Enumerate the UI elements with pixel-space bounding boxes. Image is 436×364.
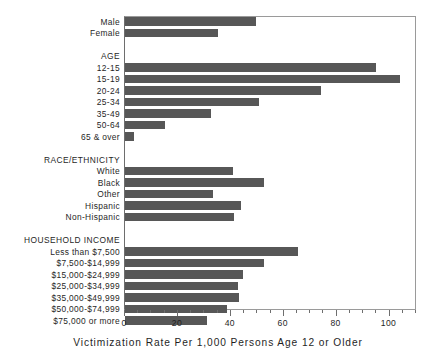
chart-group-row: HOUSEHOLD INCOME bbox=[0, 235, 436, 247]
chart-bar-row: White bbox=[0, 166, 436, 178]
category-label: 15-19 bbox=[97, 75, 124, 84]
x-axis-minor-tick bbox=[243, 310, 244, 313]
category-label: Other bbox=[97, 190, 124, 199]
category-label: $15,000-$24,999 bbox=[51, 270, 124, 279]
category-label: 65 & over bbox=[81, 132, 124, 141]
chart-bar-row: Hispanic bbox=[0, 200, 436, 212]
bar bbox=[125, 86, 321, 94]
category-label: Female bbox=[90, 29, 124, 38]
group-heading-label: HOUSEHOLD INCOME bbox=[24, 236, 124, 245]
bar-track bbox=[125, 281, 416, 293]
x-tick-label: 20 bbox=[172, 318, 182, 328]
bar-track bbox=[125, 189, 416, 201]
x-axis-minor-tick bbox=[309, 310, 310, 313]
bar bbox=[125, 270, 243, 278]
x-tick-label: 60 bbox=[278, 318, 288, 328]
bar bbox=[125, 109, 211, 117]
bar bbox=[125, 282, 238, 290]
bar bbox=[125, 63, 376, 71]
category-label: $25,000-$34,999 bbox=[51, 282, 124, 291]
bar bbox=[125, 178, 264, 186]
chart-bar-row: 15-19 bbox=[0, 74, 436, 86]
x-axis-minor-tick bbox=[203, 310, 204, 313]
chart-bar-row: Male bbox=[0, 16, 436, 28]
group-heading-label: RACE/ETHNICITY bbox=[44, 155, 124, 164]
bar bbox=[125, 121, 165, 129]
x-axis-minor-tick bbox=[270, 310, 271, 313]
x-axis-major-tick bbox=[336, 310, 337, 316]
bar bbox=[125, 167, 233, 175]
bar-track bbox=[125, 108, 416, 120]
x-axis-minor-tick bbox=[375, 310, 376, 313]
category-label: Hispanic bbox=[85, 201, 124, 210]
category-label: 12-15 bbox=[97, 63, 124, 72]
x-axis-major-tick bbox=[389, 310, 390, 316]
x-axis-tick-labels: 020406080100 bbox=[124, 318, 416, 330]
bar bbox=[125, 213, 234, 221]
x-axis-major-tick bbox=[230, 310, 231, 316]
chart-bar-row: Other bbox=[0, 189, 436, 201]
chart-group-row bbox=[0, 223, 436, 235]
chart-bar-row: 12-15 bbox=[0, 62, 436, 74]
chart-bar-row: $15,000-$24,999 bbox=[0, 269, 436, 281]
bar-track bbox=[125, 258, 416, 270]
x-axis-minor-tick bbox=[322, 310, 323, 313]
bar bbox=[125, 201, 241, 209]
chart-bar-row: $25,000-$34,999 bbox=[0, 281, 436, 293]
category-label: $75,000 or more bbox=[53, 316, 124, 325]
bar-track bbox=[125, 166, 416, 178]
bar-track bbox=[125, 269, 416, 281]
bar bbox=[125, 259, 264, 267]
chart-group-row bbox=[0, 143, 436, 155]
x-axis-minor-tick bbox=[137, 310, 138, 313]
bar-track bbox=[125, 74, 416, 86]
x-axis-minor-tick bbox=[349, 310, 350, 313]
x-axis-major-tick bbox=[283, 310, 284, 316]
chart-bar-row: 35-49 bbox=[0, 108, 436, 120]
chart-bar-row: $35,000-$49,999 bbox=[0, 292, 436, 304]
x-axis-minor-tick bbox=[190, 310, 191, 313]
x-axis-minor-tick bbox=[402, 310, 403, 313]
bar-rows-container: MaleFemaleAGE12-1515-1920-2425-3435-4950… bbox=[0, 16, 436, 327]
x-axis-minor-tick bbox=[217, 310, 218, 313]
category-label: $7,500-$14,999 bbox=[56, 259, 124, 268]
category-label: White bbox=[97, 167, 124, 176]
chart-bar-row: 20-24 bbox=[0, 85, 436, 97]
chart-group-row: RACE/ETHNICITY bbox=[0, 154, 436, 166]
x-axis-minor-tick bbox=[150, 310, 151, 313]
bar bbox=[125, 29, 218, 37]
bar-track bbox=[125, 28, 416, 40]
bar-track bbox=[125, 120, 416, 132]
category-label: $50,000-$74,999 bbox=[51, 305, 124, 314]
bar-track bbox=[125, 16, 416, 28]
chart-bar-row: 50-64 bbox=[0, 120, 436, 132]
bar-track bbox=[125, 131, 416, 143]
x-tick-label: 100 bbox=[381, 318, 397, 328]
bar bbox=[125, 98, 259, 106]
bar-track bbox=[125, 292, 416, 304]
category-label: 35-49 bbox=[97, 109, 124, 118]
chart-bar-row: 25-34 bbox=[0, 97, 436, 109]
bar bbox=[125, 75, 400, 83]
x-tick-label: 40 bbox=[225, 318, 235, 328]
bar bbox=[125, 132, 134, 140]
bar-track bbox=[125, 177, 416, 189]
x-axis-major-tick bbox=[177, 310, 178, 316]
category-label: 25-34 bbox=[97, 98, 124, 107]
chart-bar-row: Female bbox=[0, 28, 436, 40]
category-label: Male bbox=[100, 17, 124, 26]
category-label: 50-64 bbox=[97, 121, 124, 130]
x-tick-label: 0 bbox=[121, 318, 126, 328]
category-label: $35,000-$49,999 bbox=[51, 293, 124, 302]
x-axis-minor-tick bbox=[362, 310, 363, 313]
bar-track bbox=[125, 200, 416, 212]
bar-track bbox=[125, 246, 416, 258]
bar bbox=[125, 190, 213, 198]
x-axis-minor-tick bbox=[415, 310, 416, 313]
bar-track bbox=[125, 97, 416, 109]
x-axis-major-tick bbox=[124, 310, 125, 316]
chart-bar-row: Less than $7,500 bbox=[0, 246, 436, 258]
x-axis-minor-tick bbox=[296, 310, 297, 313]
category-label: Black bbox=[98, 178, 124, 187]
group-heading-label: AGE bbox=[101, 52, 124, 61]
